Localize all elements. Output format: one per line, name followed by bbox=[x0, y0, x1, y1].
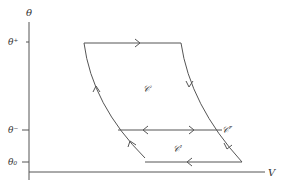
region-label-c: 𝒞 bbox=[143, 84, 152, 94]
region-label-c-double-prime: 𝒞″ bbox=[222, 125, 233, 135]
region-label-c-prime: 𝒞′ bbox=[173, 144, 182, 154]
cycle-paths bbox=[84, 43, 242, 162]
arrows bbox=[93, 39, 232, 166]
y-axis-label: θ bbox=[26, 7, 32, 18]
right-curve bbox=[181, 43, 242, 162]
x-axis-label: V bbox=[268, 167, 277, 178]
tick-label-theta-zero: θ₀ bbox=[8, 157, 17, 167]
tick-label-theta-minus: θ⁻ bbox=[8, 125, 18, 135]
left-curve bbox=[84, 43, 145, 158]
tick-label-theta-plus: θ⁺ bbox=[8, 37, 18, 47]
cycle-diagram: θ V θ⁺ θ⁻ θ₀ 𝒞 𝒞″ 𝒞′ bbox=[0, 0, 288, 189]
